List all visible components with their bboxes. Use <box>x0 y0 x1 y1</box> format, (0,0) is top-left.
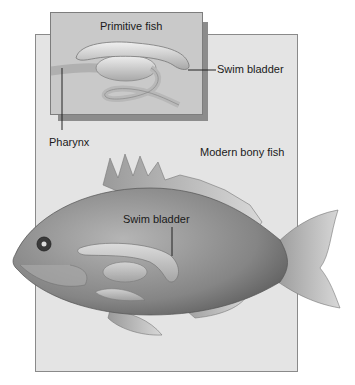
label-swim-bladder-primitive: Swim bladder <box>217 63 284 75</box>
label-pharynx: Pharynx <box>49 136 89 148</box>
label-swim-bladder-modern: Swim bladder <box>123 213 190 225</box>
main-title: Modern bony fish <box>200 146 284 158</box>
label-leader-lines <box>0 0 355 385</box>
